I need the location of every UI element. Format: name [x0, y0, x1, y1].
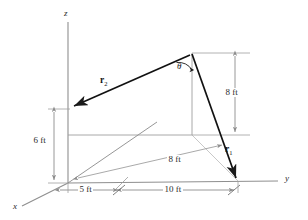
- axis-label-z: z: [64, 9, 68, 18]
- dimension-8ft-diagonal: [78, 145, 222, 191]
- dimension-label-5ft: 5 ft: [78, 185, 93, 194]
- axis-y: [68, 181, 278, 183]
- vector-r2: [74, 55, 190, 106]
- dimension-label-10ft: 10 ft: [163, 185, 183, 194]
- axis-label-x: x: [13, 202, 17, 211]
- vector-label-r2: r2: [100, 76, 107, 87]
- vector-label-r1: r1: [225, 145, 232, 156]
- vector-r1: [192, 54, 236, 178]
- axis-label-y: y: [285, 174, 289, 183]
- figure-canvas: z y x r2 r1 θ 6 ft 8 ft 8 ft 5 ft 10 ft: [0, 0, 308, 220]
- vector-label-r1-sub: 1: [229, 149, 232, 156]
- diagram-svg: [0, 0, 308, 220]
- dimension-label-8ft-diagonal: 8 ft: [167, 155, 182, 164]
- axis-x: [22, 183, 68, 206]
- dimension-label-8ft-vertical: 8 ft: [224, 88, 239, 97]
- dimension-label-6ft: 6 ft: [32, 136, 47, 145]
- vector-label-r2-sub: 2: [104, 80, 107, 87]
- angle-label-theta: θ: [177, 62, 181, 71]
